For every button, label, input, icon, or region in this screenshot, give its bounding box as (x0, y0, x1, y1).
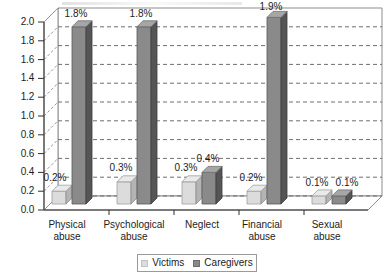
value-label-caregivers-neglect: 0.4% (190, 154, 226, 164)
y-tick-label: 0.4 (8, 167, 34, 177)
value-label-victims-financial-abuse: 0.2% (233, 173, 269, 183)
y-tick-label: 0.0 (8, 205, 34, 215)
y-tick-label: 0.2 (8, 186, 34, 196)
x-category-line2: abuse (248, 231, 275, 242)
bar-caregivers-psychological-abuse (137, 21, 157, 204)
bar-victims-physical-abuse (52, 185, 72, 204)
legend-swatch-caregivers-icon (193, 260, 200, 267)
x-category-label-financial-abuse: Financial abuse (232, 219, 292, 242)
bar-caregivers-financial-abuse (267, 11, 287, 204)
legend-swatch-victims-icon (141, 260, 148, 267)
value-label-caregivers-physical-abuse: 1.8% (58, 9, 94, 19)
y-tick-label: 1.0 (8, 111, 34, 121)
y-tick-label: 0.8 (8, 130, 34, 140)
value-label-victims-physical-abuse: 0.2% (37, 173, 73, 183)
y-tick-label: 1.6 (8, 55, 34, 65)
value-label-caregivers-financial-abuse: 1.9% (253, 2, 289, 12)
x-category-line2: abuse (313, 231, 340, 242)
bar-group-sexual-abuse (312, 190, 352, 204)
chart-legend: Victims Caregivers (137, 254, 257, 272)
y-tick-label: 1.2 (8, 92, 34, 102)
y-tick-label: 2.0 (8, 17, 34, 27)
y-tick-label: 1.8 (8, 36, 34, 46)
x-category-line1: Psychological (103, 219, 164, 230)
legend-label-victims: Victims (152, 258, 184, 268)
y-tick-label: 1.4 (8, 73, 34, 83)
x-axis (44, 210, 368, 215)
x-category-line2: abuse (120, 231, 147, 242)
legend-label-caregivers: Caregivers (204, 258, 252, 268)
bar-caregivers-neglect (202, 166, 222, 204)
x-category-line1: Neglect (185, 219, 219, 230)
value-label-victims-neglect: 0.3% (168, 163, 204, 173)
bar-victims-financial-abuse (247, 185, 267, 204)
bar-caregivers-physical-abuse (72, 21, 92, 204)
legend-item-caregivers[interactable]: Caregivers (193, 258, 252, 268)
x-category-label-neglect: Neglect (172, 219, 232, 231)
x-category-line1: Physical (48, 219, 85, 230)
bar-chart: 2.0 1.8 1.6 1.4 1.2 1.0 0.8 0.6 0.4 0.2 … (0, 0, 387, 278)
x-category-line2: abuse (53, 231, 80, 242)
x-category-line1: Financial (242, 219, 282, 230)
x-category-label-physical-abuse: Physical abuse (37, 219, 97, 242)
bar-victims-psychological-abuse (117, 176, 137, 204)
x-category-line1: Sexual (312, 219, 343, 230)
x-category-label-psychological-abuse: Psychological abuse (96, 219, 172, 242)
y-tick-label: 0.6 (8, 149, 34, 159)
x-category-label-sexual-abuse: Sexual abuse (297, 219, 357, 242)
value-label-caregivers-psychological-abuse: 1.8% (123, 9, 159, 19)
value-label-caregivers-sexual-abuse: 0.1% (329, 178, 365, 188)
value-label-victims-psychological-abuse: 0.3% (103, 163, 139, 173)
legend-item-victims[interactable]: Victims (141, 258, 184, 268)
bar-victims-neglect (182, 176, 202, 204)
